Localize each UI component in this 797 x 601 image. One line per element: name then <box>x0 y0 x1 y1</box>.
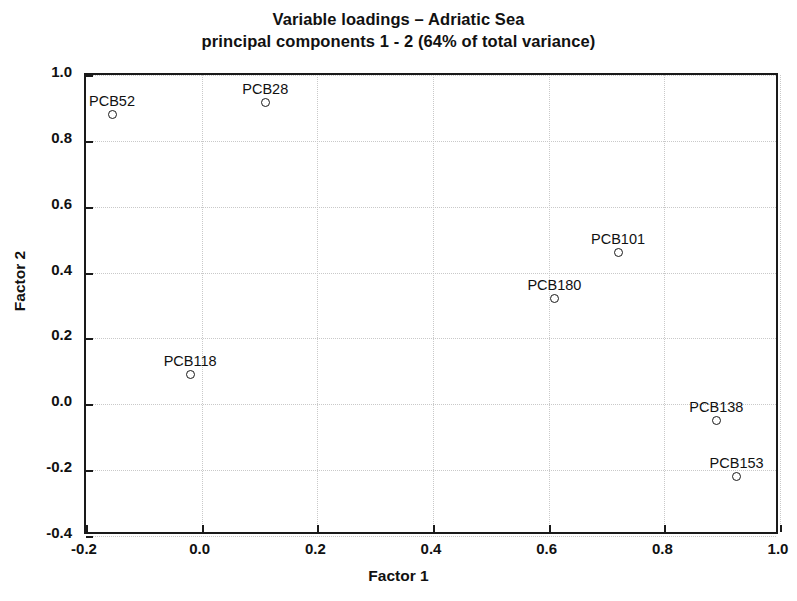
y-axis-tick <box>86 75 93 77</box>
plot-inner: PCB52PCB28PCB101PCB180PCB118PCB138PCB153 <box>86 75 776 532</box>
plot-area: PCB52PCB28PCB101PCB180PCB118PCB138PCB153 <box>84 73 778 534</box>
x-axis-tick <box>202 525 204 532</box>
data-point-pcb118[interactable] <box>186 370 195 379</box>
data-point-label-pcb28: PCB28 <box>242 81 288 97</box>
chart-title: Variable loadings – Adriatic Sea princip… <box>0 8 797 52</box>
x-axis-tick-label: -0.2 <box>54 540 114 557</box>
data-point-label-pcb138: PCB138 <box>689 399 743 415</box>
x-axis-tick <box>780 525 782 532</box>
y-axis-tick <box>86 536 93 538</box>
x-axis-tick <box>317 525 319 532</box>
gridline-horizontal <box>86 536 776 537</box>
gridline-vertical <box>664 75 665 532</box>
chart-title-line-2: principal components 1 - 2 (64% of total… <box>0 30 797 52</box>
y-axis-tick <box>86 470 93 472</box>
data-point-pcb180[interactable] <box>550 294 559 303</box>
x-axis-tick <box>86 525 88 532</box>
data-point-pcb153[interactable] <box>732 472 741 481</box>
gridline-horizontal <box>86 207 776 208</box>
gridline-horizontal <box>86 141 776 142</box>
x-axis-label: Factor 1 <box>0 567 797 585</box>
y-axis-tick <box>86 404 93 406</box>
x-axis-tick <box>664 525 666 532</box>
gridline-horizontal <box>86 273 776 274</box>
x-axis-tick-label: 0.0 <box>170 540 230 557</box>
x-axis-tick <box>433 525 435 532</box>
data-point-label-pcb153: PCB153 <box>710 455 764 471</box>
data-point-pcb138[interactable] <box>712 416 721 425</box>
y-axis-label: Factor 2 <box>11 231 29 331</box>
gridline-horizontal <box>86 338 776 339</box>
data-point-pcb52[interactable] <box>108 110 117 119</box>
y-axis-tick-label: 0.6 <box>14 195 72 212</box>
x-axis-tick-label: 0.2 <box>285 540 345 557</box>
y-axis-tick-label: -0.4 <box>14 524 72 541</box>
y-axis-tick <box>86 273 93 275</box>
y-axis-tick <box>86 141 93 143</box>
gridline-vertical <box>780 75 781 532</box>
chart-title-line-1: Variable loadings – Adriatic Sea <box>0 8 797 30</box>
x-axis-tick-label: 1.0 <box>748 540 797 557</box>
y-axis-tick-label: 0.8 <box>14 129 72 146</box>
gridline-horizontal <box>86 404 776 405</box>
y-axis-tick <box>86 338 93 340</box>
gridline-horizontal <box>86 470 776 471</box>
y-axis-tick-label: 1.0 <box>14 63 72 80</box>
y-axis-tick-label: -0.2 <box>14 458 72 475</box>
y-axis-tick-label: 0.0 <box>14 392 72 409</box>
gridline-horizontal <box>86 75 776 76</box>
x-axis-tick-label: 0.6 <box>517 540 577 557</box>
scatter-plot-figure: Variable loadings – Adriatic Sea princip… <box>0 0 797 601</box>
y-axis-tick <box>86 207 93 209</box>
x-axis-tick-label: 0.4 <box>401 540 461 557</box>
data-point-label-pcb118: PCB118 <box>164 353 217 369</box>
data-point-pcb101[interactable] <box>614 248 623 257</box>
data-point-label-pcb52: PCB52 <box>89 93 135 109</box>
gridline-vertical <box>433 75 434 532</box>
x-axis-tick <box>549 525 551 532</box>
data-point-label-pcb101: PCB101 <box>591 231 645 247</box>
data-point-pcb28[interactable] <box>261 98 270 107</box>
gridline-vertical <box>317 75 318 532</box>
x-axis-tick-label: 0.8 <box>632 540 692 557</box>
gridline-vertical <box>202 75 203 532</box>
gridline-vertical <box>549 75 550 532</box>
data-point-label-pcb180: PCB180 <box>527 277 581 293</box>
